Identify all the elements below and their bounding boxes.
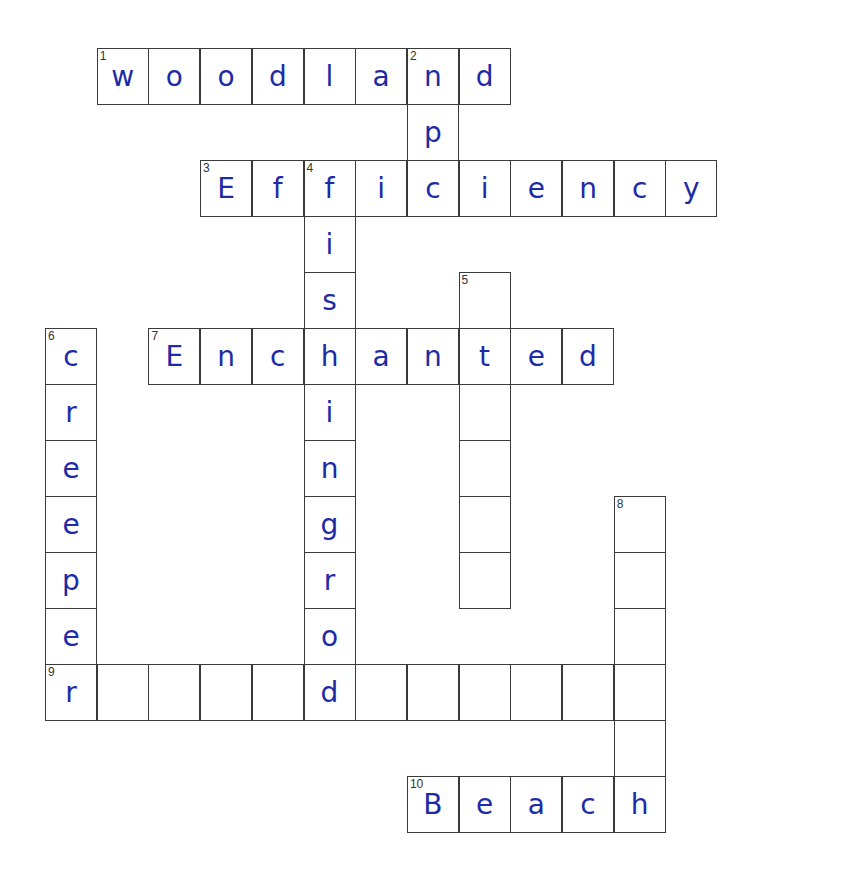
cell-letter: n [563,169,613,209]
crossword-cell[interactable]: d [459,48,511,105]
crossword-cell[interactable] [614,608,666,665]
cell-letter: n [305,449,355,489]
crossword-cell[interactable]: 5 [459,272,511,329]
crossword-cell[interactable]: t [459,328,511,385]
crossword-cell[interactable]: p [407,104,459,161]
crossword-cell[interactable] [355,664,407,721]
crossword-cell[interactable]: e [45,440,97,497]
cell-letter: h [305,337,355,377]
crossword-cell[interactable]: h [304,328,356,385]
crossword-cell[interactable]: o [304,608,356,665]
cell-letter: d [563,337,613,377]
cell-letter: f [305,169,355,209]
cell-letter: e [46,617,96,657]
crossword-cell[interactable]: d [304,664,356,721]
cell-letter: c [563,785,613,825]
crossword-cell[interactable] [407,664,459,721]
clue-number: 8 [617,498,624,510]
crossword-cell[interactable]: f [252,160,304,217]
crossword-cell[interactable] [200,664,252,721]
crossword-cell[interactable]: 7E [148,328,200,385]
crossword-cell[interactable]: c [562,776,614,833]
cell-letter: c [46,337,96,377]
crossword-cell[interactable]: e [510,160,562,217]
crossword-cell[interactable]: o [200,48,252,105]
crossword-cell[interactable]: g [304,496,356,553]
cell-letter: e [46,505,96,545]
crossword-cell[interactable]: e [45,608,97,665]
crossword-cell[interactable]: 10B [407,776,459,833]
clue-number: 5 [462,274,469,286]
crossword-cell[interactable]: a [510,776,562,833]
crossword-cell[interactable]: s [304,272,356,329]
crossword-cell[interactable]: r [45,384,97,441]
cell-letter: i [356,169,406,209]
cell-letter: n [408,337,458,377]
crossword-cell[interactable]: y [665,160,717,217]
crossword-cell[interactable]: n [562,160,614,217]
crossword-cell[interactable] [252,664,304,721]
cell-letter: a [511,785,561,825]
cell-letter: p [408,113,458,153]
crossword-cell[interactable]: e [510,328,562,385]
crossword-cell[interactable] [97,664,149,721]
crossword-cell[interactable]: 4f [304,160,356,217]
crossword-cell[interactable] [459,664,511,721]
cell-letter: c [408,169,458,209]
crossword-cell[interactable]: d [252,48,304,105]
cell-letter: c [253,337,303,377]
crossword-cell[interactable]: 9r [45,664,97,721]
crossword-cell[interactable]: 3E [200,160,252,217]
crossword-cell[interactable]: n [407,328,459,385]
cell-letter: d [305,673,355,713]
crossword-cell[interactable]: i [304,384,356,441]
crossword-cell[interactable]: e [459,776,511,833]
crossword-cell[interactable]: i [459,160,511,217]
crossword-cell[interactable]: 8 [614,496,666,553]
cell-letter: g [305,505,355,545]
crossword-cell[interactable]: c [407,160,459,217]
cell-letter: r [46,673,96,713]
crossword-cell[interactable]: c [614,160,666,217]
cell-letter: h [615,785,665,825]
cell-letter: d [253,57,303,97]
crossword-cell[interactable]: i [304,216,356,273]
crossword-cell[interactable]: l [304,48,356,105]
cell-letter: E [201,169,251,209]
crossword-grid: 1woodla2ndp3Ef4ficiencyis56c7Enchantedri… [0,0,866,880]
crossword-cell[interactable]: a [355,328,407,385]
cell-letter: c [615,169,665,209]
cell-letter: d [460,57,510,97]
crossword-cell[interactable]: 2n [407,48,459,105]
crossword-cell[interactable] [614,664,666,721]
crossword-cell[interactable] [459,440,511,497]
cell-letter: o [305,617,355,657]
crossword-cell[interactable] [459,384,511,441]
crossword-cell[interactable] [459,496,511,553]
crossword-cell[interactable] [562,664,614,721]
crossword-cell[interactable]: h [614,776,666,833]
crossword-cell[interactable]: o [148,48,200,105]
crossword-cell[interactable] [510,664,562,721]
cell-letter: o [149,57,199,97]
crossword-cell[interactable]: 1w [97,48,149,105]
crossword-cell[interactable] [148,664,200,721]
crossword-cell[interactable]: i [355,160,407,217]
crossword-cell[interactable]: n [200,328,252,385]
crossword-cell[interactable] [459,552,511,609]
crossword-cell[interactable] [614,552,666,609]
crossword-cell[interactable]: r [304,552,356,609]
crossword-cell[interactable]: e [45,496,97,553]
cell-letter: a [356,57,406,97]
crossword-cell[interactable]: 6c [45,328,97,385]
crossword-cell[interactable]: d [562,328,614,385]
cell-letter: w [98,57,148,97]
cell-letter: e [46,449,96,489]
crossword-cell[interactable]: c [252,328,304,385]
cell-letter: n [408,57,458,97]
crossword-cell[interactable] [614,720,666,777]
crossword-cell[interactable]: n [304,440,356,497]
cell-letter: E [149,337,199,377]
crossword-cell[interactable]: p [45,552,97,609]
crossword-cell[interactable]: a [355,48,407,105]
